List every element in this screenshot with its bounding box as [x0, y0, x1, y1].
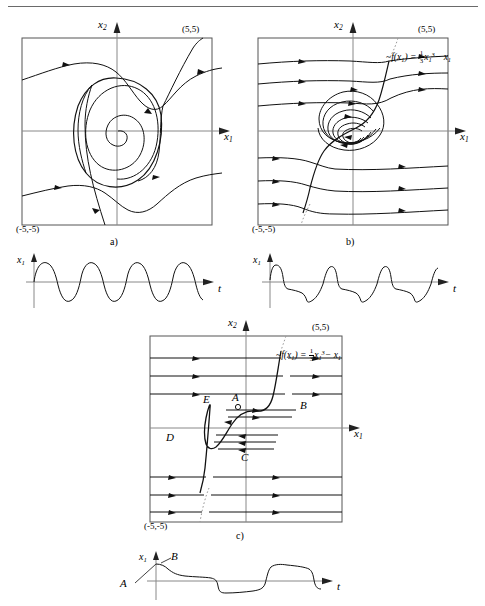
- point-marker-a: [235, 404, 240, 409]
- time-axis-t-arrow: [322, 578, 333, 584]
- time-waveform-relaxation: [270, 265, 438, 302]
- axis-label-x1: x1: [224, 130, 233, 144]
- point-label-c: C: [241, 451, 248, 463]
- panel-a-plot: [0, 18, 240, 240]
- point-label-b: B: [300, 399, 307, 411]
- direction-arrows: [272, 54, 426, 213]
- axis-label-x2: x2: [98, 18, 107, 32]
- trajectory-ascend-right: [163, 38, 203, 106]
- direction-arrows: [54, 62, 205, 214]
- axis-x2-arrow: [243, 320, 250, 331]
- time-point-label-a: A: [120, 577, 127, 589]
- time-axis-label-x1: x1: [253, 254, 261, 266]
- time-axis-label-x1: x1: [139, 551, 147, 563]
- trajectory-descend-left: [85, 85, 105, 225]
- time-axis-t-arrow: [203, 279, 214, 285]
- leader-line-a: [135, 564, 156, 583]
- axis-label-x2: x2: [228, 316, 237, 330]
- corner-label-max: (5,5): [418, 24, 435, 34]
- axis-label-x2: x2: [334, 18, 343, 32]
- panel-a-caption: a): [110, 236, 118, 247]
- time-axis-x1-arrow: [267, 253, 273, 262]
- corner-label-min: (-5,-5): [252, 224, 275, 234]
- time-axis-x1-arrow: [153, 551, 159, 560]
- time-axis-label-t: t: [453, 282, 456, 294]
- panel-b-time-series: x1 t: [240, 252, 485, 312]
- corner-label-min: (-5,-5): [16, 224, 39, 234]
- panel-c-caption: c): [236, 530, 244, 541]
- panel-c-time-series: x1 B A t: [95, 548, 385, 606]
- corner-label-min: (-5,-5): [144, 521, 167, 531]
- time-axis-label-x1: x1: [17, 254, 25, 266]
- panel-a-time-plot: [0, 252, 240, 312]
- limit-cycle: [74, 78, 162, 187]
- axis-x2-arrow: [114, 22, 121, 33]
- leader-line-b: [161, 558, 171, 563]
- panel-a-phase-portrait: x2 x1 (5,5) (-5,-5) a): [0, 18, 240, 240]
- axis-label-x1: x1: [460, 130, 469, 144]
- corner-label-max: (5,5): [312, 322, 329, 332]
- panel-a-time-series: x1 t: [0, 252, 240, 312]
- corner-label-max: (5,5): [182, 24, 199, 34]
- point-label-e: E: [203, 393, 210, 405]
- time-axis-x1-arrow: [31, 253, 37, 262]
- trajectory-outer-upper: [22, 63, 222, 110]
- time-axis-t-arrow: [438, 279, 449, 285]
- time-axis-label-t: t: [337, 580, 340, 592]
- time-axis-label-t: t: [218, 282, 221, 294]
- point-label-d: D: [166, 431, 174, 443]
- point-label-a: A: [232, 391, 239, 403]
- axis-label-x1: x1: [354, 427, 363, 441]
- time-point-label-b: B: [171, 550, 178, 562]
- nullcline-curve: [200, 351, 281, 493]
- panel-b-time-plot: [240, 252, 485, 312]
- nullcline-function-label: ~f(x1) = 1 3 x13− x1: [386, 50, 451, 65]
- time-waveform-square-relaxation: [156, 564, 321, 593]
- direction-arrows: [168, 356, 320, 515]
- nullcline-function-label: ~f(x1) = 1 3 x13− x1: [276, 348, 341, 363]
- panel-b-phase-portrait: x2 x1 (5,5) (-5,-5) ~f(x1) = 1 3 x13− x1…: [240, 18, 485, 240]
- panel-b-caption: b): [346, 236, 354, 247]
- page-top-rule: [8, 6, 478, 7]
- axis-x2-arrow: [350, 22, 357, 33]
- trajectory-inner-spiral: [86, 86, 158, 180]
- panel-c-phase-portrait: x2 x1 (5,5) (-5,-5) ~f(x1) = 1 3 x13− x1…: [120, 318, 370, 546]
